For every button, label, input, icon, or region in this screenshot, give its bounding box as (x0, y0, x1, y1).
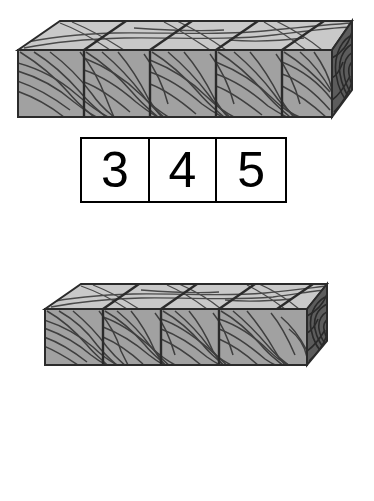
beam-top-face (45, 284, 327, 309)
wooden-beam-1 (14, 18, 356, 122)
beam-front-face (14, 50, 332, 121)
answer-box[interactable]: 5 (217, 139, 285, 201)
worksheet-item-2: 3 4 5 (0, 250, 374, 501)
worksheet-page: 3 4 5 (0, 0, 374, 501)
beam-front-face (41, 309, 307, 370)
answer-box[interactable]: 4 (150, 139, 218, 201)
answer-box[interactable]: 3 (82, 139, 150, 201)
answer-boxes-1[interactable]: 3 4 5 (80, 137, 287, 203)
wooden-beam-2 (41, 281, 331, 371)
worksheet-item-1: 3 4 5 (0, 0, 374, 250)
